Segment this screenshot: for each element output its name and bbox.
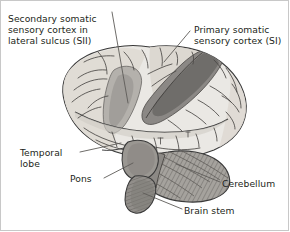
brain-stem-label: Brain stem: [184, 205, 235, 216]
brain-anatomy-figure: Secondary somatic sensory cortex in late…: [0, 0, 290, 232]
primary-somatic-sensory-cortex-label: Primary somatic sensory cortex (SI): [194, 24, 281, 46]
pons-label: Pons: [70, 173, 92, 184]
secondary-somatic-sensory-cortex-label: Secondary somatic sensory cortex in late…: [8, 13, 97, 47]
brain-stem-group: [102, 140, 158, 213]
cerebellum-label: Cerebellum: [222, 178, 275, 189]
temporal-lobe-label: Temporal lobe: [20, 147, 62, 169]
cerebrum-group: [63, 46, 246, 160]
